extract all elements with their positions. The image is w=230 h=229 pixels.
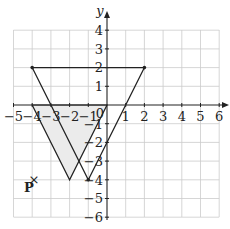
x-tick-label: 6 (215, 109, 223, 124)
x-axis-arrow-icon (222, 102, 229, 108)
x-tick-label: −3 (41, 109, 60, 124)
point-p-label: P (24, 180, 34, 195)
y-tick-label: −1 (84, 117, 103, 132)
vertex-dot (143, 66, 147, 70)
x-tick-label: 5 (196, 109, 204, 124)
x-tick-label: 2 (140, 109, 148, 124)
x-tick-label: 3 (159, 109, 167, 124)
vertex-dot (30, 66, 34, 70)
x-tick-label: 1 (122, 109, 130, 124)
y-tick-label: −3 (84, 154, 103, 169)
y-tick-label: 3 (95, 42, 103, 57)
y-tick-label: 2 (95, 60, 103, 75)
y-tick-label: −6 (84, 210, 103, 225)
y-tick-label: 1 (95, 79, 103, 94)
y-tick-label: −4 (84, 173, 103, 188)
x-tick-label: −4 (23, 109, 42, 124)
x-tick-label: −2 (60, 109, 79, 124)
y-axis-label: y (95, 3, 104, 18)
y-tick-label: −2 (84, 135, 103, 150)
coordinate-grid-diagram: −5 −4 −3 −2 −1 0 1 2 3 4 5 6 4 3 2 1 −1 … (0, 0, 230, 229)
y-axis-arrow-icon (104, 11, 110, 18)
x-tick-label: 4 (178, 109, 186, 124)
y-tick-label: −5 (84, 191, 103, 206)
y-tick-label: 4 (95, 23, 103, 38)
x-tick-label: −5 (4, 109, 23, 124)
